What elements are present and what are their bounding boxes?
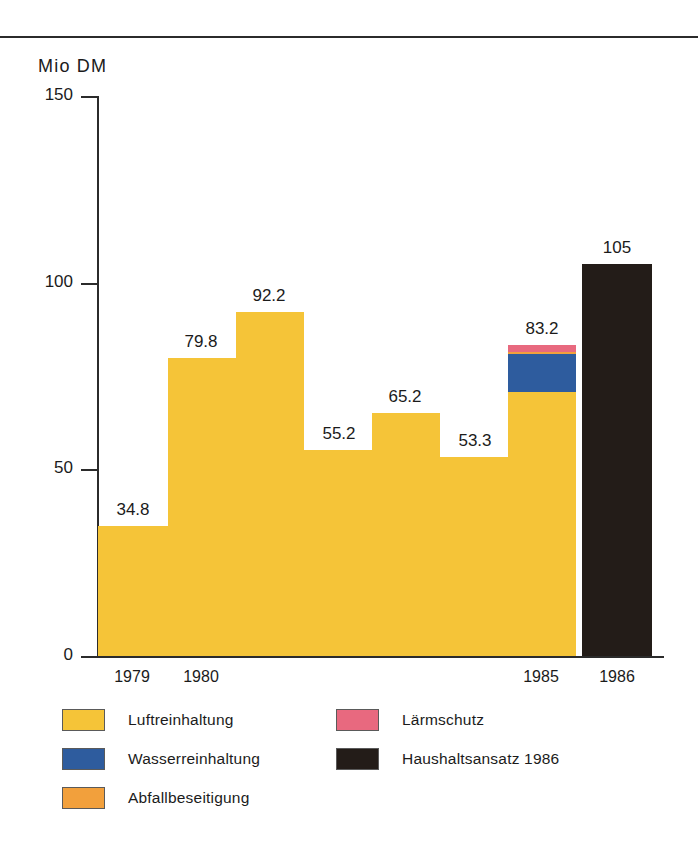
bar-1982[interactable] (304, 450, 372, 656)
bar-1986[interactable] (582, 264, 652, 656)
legend-label-laermschutz: Lärmschutz (402, 711, 484, 729)
bar-segment-luftreinhaltung (304, 450, 372, 656)
plot-area: 150 100 50 0 34.8 79.8 92.2 (97, 96, 665, 658)
legend-label-abfallbeseitigung: Abfallbeseitigung (128, 789, 249, 807)
legend-column-right: Lärmschutz Haushaltsansatz 1986 (336, 700, 559, 778)
legend-swatch-laermschutz (336, 709, 379, 731)
bar-group: 34.8 79.8 92.2 55.2 65.2 (98, 96, 665, 656)
header-divider (0, 36, 698, 38)
legend-swatch-luftreinhaltung (62, 709, 105, 731)
bar-value-1984: 53.3 (440, 431, 510, 451)
bar-1984[interactable] (440, 457, 508, 656)
legend-swatch-wasserreinhaltung (62, 748, 105, 770)
legend-swatch-haushaltsansatz (336, 748, 379, 770)
y-tick-label-100: 100 (45, 272, 73, 292)
bar-value-1979: 34.8 (98, 500, 168, 520)
bar-segment-luftreinhaltung (168, 358, 236, 656)
bar-value-1985: 83.2 (508, 319, 576, 339)
legend-column-left: Luftreinhaltung Wasserreinhaltung Abfall… (62, 700, 260, 817)
bar-1980[interactable] (168, 358, 236, 656)
bar-1985[interactable] (508, 345, 576, 656)
y-axis-unit-label: Mio DM (38, 56, 107, 77)
x-axis-line (96, 656, 664, 658)
bar-segment-wasserreinhaltung (508, 354, 576, 393)
bar-segment-laermschutz (508, 345, 576, 351)
legend-item-luftreinhaltung[interactable]: Luftreinhaltung (62, 700, 260, 739)
bar-1979[interactable] (98, 526, 168, 656)
y-tick-label-150: 150 (45, 85, 73, 105)
bar-segment-haushaltsansatz (582, 264, 652, 656)
x-label-1986: 1986 (582, 668, 652, 686)
y-tick-label-50: 50 (54, 458, 73, 478)
legend-item-wasserreinhaltung[interactable]: Wasserreinhaltung (62, 739, 260, 778)
legend-label-wasserreinhaltung: Wasserreinhaltung (128, 750, 260, 768)
bar-value-1981: 92.2 (234, 286, 304, 306)
y-tick-150: 150 (81, 96, 99, 98)
y-tick-0: 0 (81, 656, 99, 658)
y-tick-label-0: 0 (64, 645, 73, 665)
bar-1981[interactable] (236, 312, 304, 656)
chart-page: Mio DM 150 100 50 0 34.8 79.8 (0, 0, 698, 849)
bar-segment-luftreinhaltung (98, 526, 168, 656)
x-label-1979: 1979 (97, 668, 167, 686)
bar-value-1980: 79.8 (166, 332, 236, 352)
y-tick-100: 100 (81, 283, 99, 285)
legend-item-haushaltsansatz[interactable]: Haushaltsansatz 1986 (336, 739, 559, 778)
bar-value-1986: 105 (582, 238, 652, 258)
x-label-1980: 1980 (167, 668, 235, 686)
bar-segment-luftreinhaltung (440, 457, 508, 656)
bar-segment-luftreinhaltung (236, 312, 304, 656)
legend-item-abfallbeseitigung[interactable]: Abfallbeseitigung (62, 778, 260, 817)
y-tick-50: 50 (81, 469, 99, 471)
chart-legend: Luftreinhaltung Wasserreinhaltung Abfall… (62, 700, 662, 830)
x-label-1985: 1985 (507, 668, 575, 686)
bar-segment-luftreinhaltung (508, 392, 576, 656)
bar-value-1983: 65.2 (370, 387, 440, 407)
legend-label-haushaltsansatz: Haushaltsansatz 1986 (402, 750, 559, 768)
legend-swatch-abfallbeseitigung (62, 787, 105, 809)
bar-segment-abfallbeseitigung (508, 352, 576, 354)
bar-segment-luftreinhaltung (372, 413, 440, 656)
legend-label-luftreinhaltung: Luftreinhaltung (128, 711, 234, 729)
bar-value-1982: 55.2 (304, 424, 374, 444)
bar-1983[interactable] (372, 413, 440, 656)
legend-item-laermschutz[interactable]: Lärmschutz (336, 700, 559, 739)
